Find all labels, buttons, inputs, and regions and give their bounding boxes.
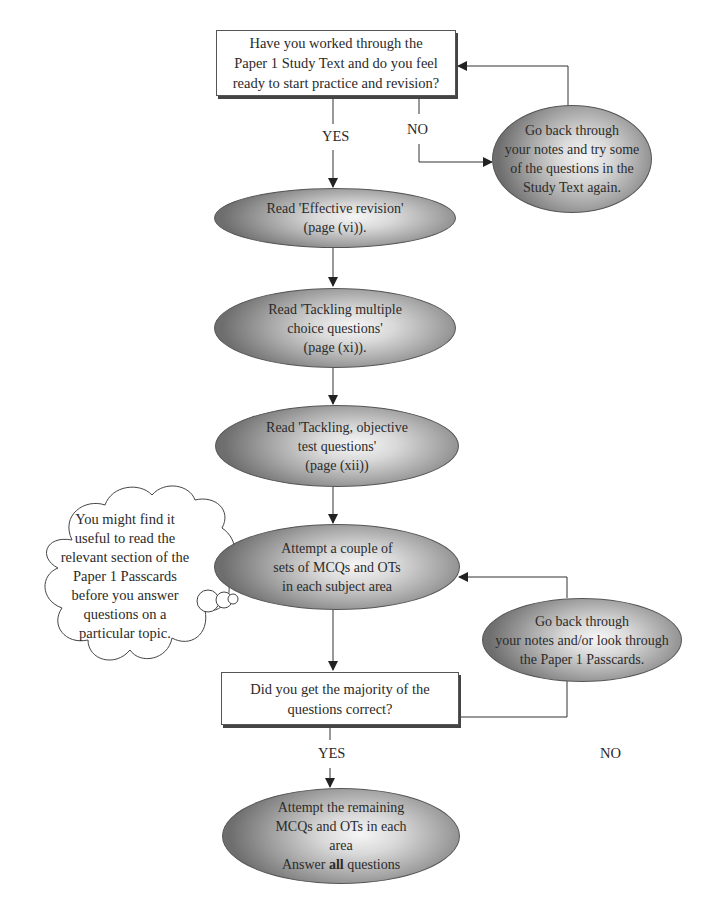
majority-correct-decision-box: Did you get the majority of the question… xyxy=(221,672,459,725)
go-back-1-line-1: Go back through xyxy=(525,121,619,140)
final-line-4: Answer all questions xyxy=(282,855,400,874)
final-line-4-bold: all xyxy=(329,857,344,872)
go-back-1-line-2: your notes and try some xyxy=(505,140,640,159)
no-label-1: NO xyxy=(407,121,428,138)
decision-line-2: questions correct? xyxy=(287,699,392,719)
cloud-line-4: Paper 1 Passcards xyxy=(40,567,210,586)
go-back-1-line-4: Study Text again. xyxy=(523,178,621,197)
final-line-1: Attempt the remaining xyxy=(278,798,405,817)
attempt-line-2: sets of MCQs and OTs xyxy=(273,558,400,577)
cloud-line-3: relevant section of the xyxy=(40,548,210,567)
thought-bubble-small xyxy=(228,594,238,604)
start-question-box: Have you worked through the Paper 1 Stud… xyxy=(216,30,456,96)
go-back-2-line-2: your notes and/or look through xyxy=(495,631,668,650)
go-back-study-text-node: Go back through your notes and try some … xyxy=(492,105,652,213)
ot-line-1: Read 'Tackling, objective xyxy=(266,418,408,437)
attempt-sets-node: Attempt a couple of sets of MCQs and OTs… xyxy=(214,524,460,610)
final-line-4-suffix: questions xyxy=(344,857,400,872)
no-label-2: NO xyxy=(600,745,621,762)
thought-cloud-text: You might find it useful to read the rel… xyxy=(40,510,210,643)
yes-label-2: YES xyxy=(318,745,345,762)
read-multiple-choice-node: Read 'Tackling multiple choice questions… xyxy=(214,288,456,368)
go-back-2-line-3: the Paper 1 Passcards. xyxy=(520,650,644,669)
decision-line-1: Did you get the majority of the xyxy=(250,679,430,699)
mcq-line-2: choice questions' xyxy=(287,319,382,338)
final-line-4-prefix: Answer xyxy=(282,857,329,872)
effective-revision-line-2: (page (vi)). xyxy=(304,218,367,237)
go-back-1-line-3: of the questions in the xyxy=(510,159,634,178)
start-question-line-1: Have you worked through the xyxy=(249,33,422,53)
arrow-go-back-2-return xyxy=(459,577,567,598)
start-question-line-2: Paper 1 Study Text and do you feel xyxy=(234,53,438,73)
go-back-2-line-1: Go back through xyxy=(535,612,629,631)
arrow-no-1-lower xyxy=(419,144,492,162)
cloud-line-2: useful to read the xyxy=(40,529,210,548)
start-question-line-3: ready to start practice and revision? xyxy=(233,73,440,93)
cloud-line-5: before you answer xyxy=(40,586,210,605)
cloud-line-6: questions on a xyxy=(40,605,210,624)
ot-line-2: test questions' xyxy=(298,437,376,456)
attempt-line-1: Attempt a couple of xyxy=(281,539,393,558)
mcq-line-3: (page (xi)). xyxy=(304,338,367,357)
arrow-go-back-1-return xyxy=(458,66,568,106)
read-effective-revision-node: Read 'Effective revision' (page (vi)). xyxy=(214,188,456,248)
cloud-line-1: You might find it xyxy=(40,510,210,529)
attempt-remaining-node: Attempt the remaining MCQs and OTs in ea… xyxy=(222,788,460,884)
effective-revision-line-1: Read 'Effective revision' xyxy=(267,199,404,218)
attempt-line-3: in each subject area xyxy=(282,577,392,596)
ot-line-3: (page (xii)) xyxy=(305,456,368,475)
cloud-line-7: particular topic. xyxy=(40,624,210,643)
final-line-2: MCQs and OTs in each xyxy=(275,817,406,836)
yes-label-1: YES xyxy=(322,128,349,145)
go-back-passcards-node: Go back through your notes and/or look t… xyxy=(482,598,682,682)
final-line-3: area xyxy=(329,836,352,855)
read-objective-test-node: Read 'Tackling, objective test questions… xyxy=(215,405,459,487)
mcq-line-1: Read 'Tackling multiple xyxy=(268,300,402,319)
